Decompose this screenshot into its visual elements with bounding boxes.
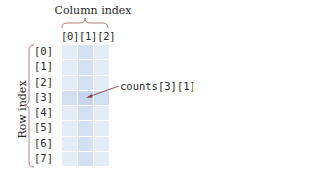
callout-label: counts[3][1] xyxy=(120,80,193,92)
